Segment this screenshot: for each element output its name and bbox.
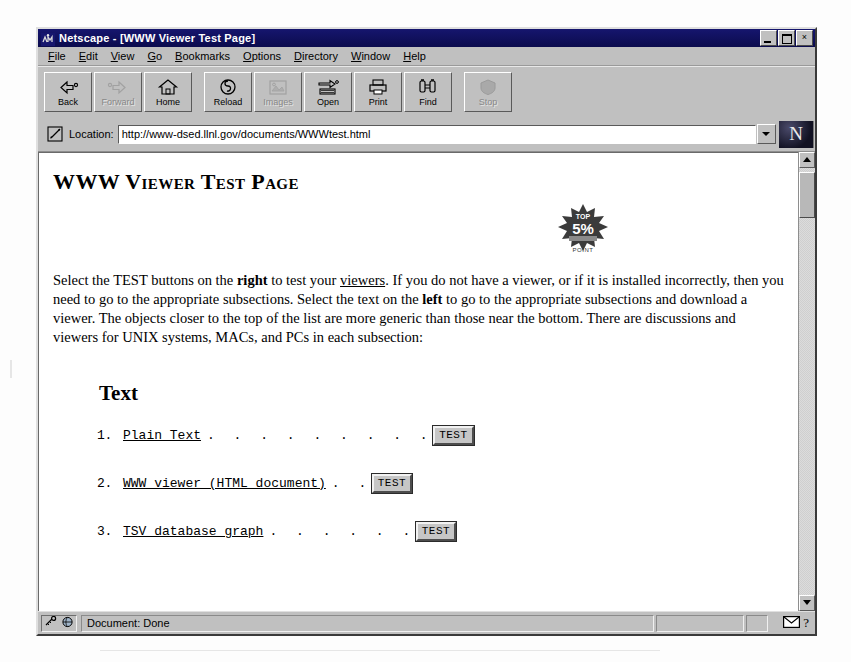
- menu-label-help: elp: [411, 50, 426, 62]
- list-item: 1. Plain Text . . . . . . . . . TEST: [97, 426, 784, 445]
- test-button[interactable]: TEST: [433, 426, 473, 445]
- reload-icon: [215, 78, 241, 97]
- netscape-icon: [41, 32, 55, 45]
- back-arrow-icon: [55, 78, 81, 97]
- netscape-window: Netscape - [WWW Viewer Test Page] × File…: [36, 27, 817, 636]
- menu-label-file: ile: [55, 50, 66, 62]
- vertical-scrollbar[interactable]: [798, 152, 815, 611]
- menu-item-go[interactable]: Go: [141, 49, 169, 63]
- list-item-leader-dots: . . . . . . . . .: [201, 428, 433, 443]
- intro-part1: Select the TEST buttons on the: [53, 272, 237, 288]
- viewer-list: 1. Plain Text . . . . . . . . . TEST 2. …: [53, 426, 784, 541]
- minimize-button[interactable]: [760, 30, 777, 46]
- location-dropdown-button[interactable]: [757, 124, 776, 144]
- netscape-logo[interactable]: N: [779, 121, 814, 148]
- html-document: WWW Viewer Test Page TOP 5%: [39, 153, 798, 570]
- menu-item-window[interactable]: Window: [345, 49, 397, 63]
- list-item-leader-dots: . . . . . .: [263, 524, 415, 539]
- svg-text:5%: 5%: [572, 220, 594, 237]
- find-button[interactable]: Find: [404, 72, 452, 112]
- list-item: 3. TSV database graph . . . . . . TEST: [97, 522, 784, 541]
- status-right-icons: ?: [770, 615, 812, 632]
- page-title: WWW Viewer Test Page: [53, 169, 784, 195]
- menu-label-view: iew: [118, 50, 135, 62]
- location-label: Location:: [69, 128, 114, 140]
- list-item-link[interactable]: TSV database graph: [123, 524, 263, 539]
- images-icon: [265, 78, 291, 97]
- printer-icon: [365, 78, 391, 97]
- mail-envelope-icon[interactable]: [783, 614, 800, 632]
- print-button-label: Print: [369, 98, 388, 107]
- images-button-label: Images: [263, 98, 293, 107]
- list-item-number: 3.: [97, 524, 123, 539]
- restore-button[interactable]: [778, 30, 795, 46]
- test-button[interactable]: TEST: [372, 474, 412, 493]
- security-status-icons[interactable]: [41, 615, 77, 632]
- location-bar: Location: http://www-dsed.llnl.gov/docum…: [38, 117, 815, 151]
- toolbar-group-stop: Stop: [464, 72, 514, 112]
- window-title: Netscape - [WWW Viewer Test Page]: [59, 32, 760, 44]
- menu-item-file[interactable]: File: [42, 49, 73, 63]
- menu-bar: File Edit View Go Bookmarks Options Dire…: [38, 47, 815, 66]
- scanned-page-background: Netscape - [WWW Viewer Test Page] × File…: [0, 0, 851, 662]
- status-progress-pane: [656, 615, 744, 632]
- list-item-link[interactable]: WWW viewer (HTML document): [123, 476, 326, 491]
- content-area: WWW Viewer Test Page TOP 5%: [38, 151, 815, 611]
- broken-key-icon: [44, 614, 58, 632]
- minimize-icon: [764, 41, 771, 43]
- menu-item-help[interactable]: Help: [397, 49, 433, 63]
- print-button[interactable]: Print: [354, 72, 402, 112]
- binoculars-icon: [415, 78, 441, 97]
- open-icon: [315, 78, 341, 97]
- menu-item-view[interactable]: View: [105, 49, 142, 63]
- find-button-label: Find: [419, 98, 437, 107]
- menu-item-options[interactable]: Options: [237, 49, 288, 63]
- test-button[interactable]: TEST: [416, 522, 456, 541]
- menu-label-bookmarks: ookmarks: [182, 50, 230, 62]
- toolbar-group-page: Reload Images: [204, 72, 454, 112]
- forward-button[interactable]: Forward: [94, 72, 142, 112]
- navigation-toolbar: Back Forward: [38, 66, 815, 117]
- home-button[interactable]: Home: [144, 72, 192, 112]
- restore-icon: [782, 34, 792, 44]
- badge-caption: POINT: [557, 247, 609, 253]
- stop-button[interactable]: Stop: [464, 72, 512, 112]
- scrollbar-thumb[interactable]: [799, 172, 815, 218]
- intro-bold-left: left: [422, 291, 442, 307]
- status-message: Document: Done: [81, 615, 654, 632]
- viewers-link[interactable]: viewers: [340, 272, 385, 288]
- scan-artifact: [100, 650, 660, 651]
- globe-icon: [61, 614, 74, 632]
- stop-button-label: Stop: [479, 98, 498, 107]
- help-question-icon[interactable]: ?: [803, 617, 809, 629]
- scrollbar-track[interactable]: [799, 168, 815, 595]
- status-bar: Document: Done ?: [38, 611, 815, 634]
- reload-button[interactable]: Reload: [204, 72, 252, 112]
- menu-label-go: o: [156, 50, 162, 62]
- menu-label-directory: irectory: [302, 50, 338, 62]
- section-heading-text: Text: [99, 381, 784, 406]
- back-button[interactable]: Back: [44, 72, 92, 112]
- list-item-link[interactable]: Plain Text: [123, 428, 201, 443]
- scroll-up-button[interactable]: [799, 152, 815, 168]
- scroll-up-arrow-icon: [803, 157, 811, 162]
- scroll-down-arrow-icon: [803, 600, 811, 605]
- window-controls: ×: [760, 30, 813, 46]
- list-item-number: 2.: [97, 476, 123, 491]
- close-button[interactable]: ×: [796, 30, 813, 46]
- close-icon: ×: [797, 31, 812, 45]
- menu-item-bookmarks[interactable]: Bookmarks: [169, 49, 237, 63]
- open-button[interactable]: Open: [304, 72, 352, 112]
- location-input[interactable]: http://www-dsed.llnl.gov/documents/WWWte…: [118, 125, 756, 144]
- images-button[interactable]: Images: [254, 72, 302, 112]
- scroll-down-button[interactable]: [799, 595, 815, 611]
- page-viewport: WWW Viewer Test Page TOP 5%: [38, 152, 798, 611]
- toolbar-group-navigation: Back Forward: [44, 72, 194, 112]
- menu-item-edit[interactable]: Edit: [73, 49, 105, 63]
- menu-label-options: ptions: [252, 50, 281, 62]
- stop-icon: [475, 78, 501, 97]
- intro-part2: to test your: [268, 272, 341, 288]
- menu-item-directory[interactable]: Directory: [288, 49, 345, 63]
- bookmark-quill-icon: [46, 125, 64, 143]
- svg-text:TOP: TOP: [576, 213, 591, 220]
